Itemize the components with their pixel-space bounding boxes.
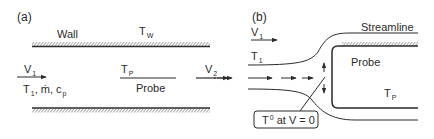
top-wall-hatch xyxy=(32,42,210,46)
panel-a-graphics xyxy=(17,42,228,113)
b-probe-label: Probe xyxy=(351,57,380,68)
inlet-velocity-label: V1 xyxy=(24,64,36,75)
panel-a-tag: (a) xyxy=(17,11,32,23)
bottom-wall-hatch xyxy=(32,109,210,113)
b-probe-temp-label: TP xyxy=(384,88,396,99)
outlet-velocity-label: V2 xyxy=(205,64,217,75)
wall-label: Wall xyxy=(57,29,78,40)
stagnation-callout: T0 at V = 0 xyxy=(262,115,315,126)
b-inlet-temp-label: T1 xyxy=(251,51,263,62)
probe-hatch xyxy=(342,42,418,46)
b-inlet-velocity-label: V1 xyxy=(251,27,263,38)
panel-b-graphics xyxy=(217,33,418,128)
inlet-properties-label: T1, ṁ, cp xyxy=(23,84,66,95)
figure: (a) Wall TW V1 T1, ṁ, cp TP Probe V2 (b)… xyxy=(0,0,434,139)
probe-label: Probe xyxy=(136,83,165,94)
streamline-label: Streamline xyxy=(361,22,414,33)
panel-b-tag: (b) xyxy=(252,11,267,23)
probe-temp-label: TP xyxy=(121,64,133,75)
wall-temp-label: TW xyxy=(139,26,153,37)
